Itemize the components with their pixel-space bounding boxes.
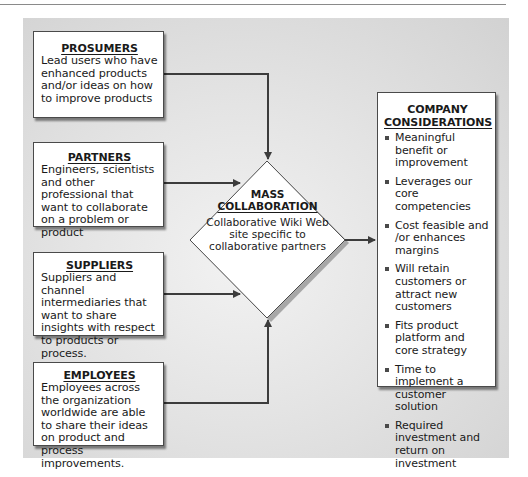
hub-title-line1: MASS: [205, 188, 330, 200]
bullet-icon: [385, 267, 389, 271]
partners-description: Engineers, scientists and other professi…: [41, 164, 158, 240]
suppliers-description: Suppliers and channel intermediaries tha…: [41, 272, 158, 360]
list-item: Required investment and return on invest…: [384, 420, 491, 470]
hub-title-line2: COLLABORATION: [205, 200, 330, 212]
prosumers-box: PROSUMERS Lead users who have enhanced p…: [33, 31, 164, 118]
considerations-title: COMPANY CONSIDERATIONS: [384, 103, 491, 129]
bullet-icon: [385, 368, 389, 372]
list-item: Fits product platform and core strategy: [384, 320, 491, 358]
list-item: Will retain customers or attract new cus…: [384, 263, 491, 313]
employees-box: EMPLOYEES Employees across the organizat…: [33, 362, 164, 446]
partners-box: PARTNERS Engineers, scientists and other…: [33, 142, 164, 227]
edge-employees: [164, 320, 268, 403]
list-item: Leverages our core competencies: [384, 176, 491, 214]
bullet-icon: [385, 136, 389, 140]
bullet-icon: [385, 224, 389, 228]
edge-prosumers: [164, 74, 268, 159]
prosumers-description: Lead users who have enhanced products an…: [41, 55, 158, 105]
suppliers-box: SUPPLIERS Suppliers and channel intermed…: [33, 252, 164, 336]
hub-label: MASS COLLABORATION Collaborative Wiki We…: [205, 188, 330, 252]
bullet-icon: [385, 424, 389, 428]
bullet-icon: [385, 180, 389, 184]
list-item: Time to implement a customer solution: [384, 364, 491, 414]
employees-description: Employees across the organization worldw…: [41, 382, 158, 470]
bullet-icon: [385, 324, 389, 328]
considerations-list: Meaningful benefit or improvement Levera…: [384, 132, 491, 470]
list-item: Cost feasible and /or enhances margins: [384, 220, 491, 258]
company-considerations-box: COMPANY CONSIDERATIONS Meaningful benefi…: [377, 92, 496, 387]
list-item: Meaningful benefit or improvement: [384, 132, 491, 170]
hub-description: Collaborative Wiki Web site specific to …: [205, 216, 330, 253]
